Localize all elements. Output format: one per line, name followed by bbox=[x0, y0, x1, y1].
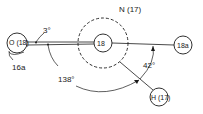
bond-line-right bbox=[112, 43, 174, 45]
angle-138-arc-top bbox=[48, 45, 58, 66]
center-label: 18 bbox=[97, 40, 105, 47]
diagram-canvas bbox=[0, 0, 203, 114]
angle-42-label: 42° bbox=[143, 62, 155, 70]
angle-3-dot bbox=[35, 42, 37, 44]
ring-label: N (17) bbox=[119, 6, 141, 14]
angle-138-label: 138° bbox=[58, 76, 75, 84]
label-16a: 16a bbox=[12, 64, 25, 72]
18a-label: 18a bbox=[177, 42, 189, 49]
o18-label: O (18) bbox=[9, 39, 29, 46]
angle-3-label: 3° bbox=[43, 27, 51, 35]
h17-label: H (17) bbox=[151, 94, 170, 101]
angle-138-arc-bottom bbox=[76, 80, 139, 92]
bond-line-lower bbox=[27, 44, 94, 45]
angle-138-dot bbox=[47, 44, 49, 46]
angle-42-arrowhead bbox=[151, 46, 155, 51]
